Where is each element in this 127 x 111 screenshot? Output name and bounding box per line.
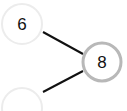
node-8-label: 8 bbox=[97, 53, 106, 72]
edge-empty-to-8 bbox=[43, 71, 83, 92]
node-empty bbox=[2, 88, 42, 111]
node-empty-circle bbox=[2, 88, 42, 111]
node-6-label: 6 bbox=[17, 15, 26, 34]
node-8: 8 bbox=[83, 43, 121, 81]
edge-6-to-8 bbox=[43, 32, 83, 54]
tree-diagram: 6 8 bbox=[0, 0, 127, 111]
node-6: 6 bbox=[2, 4, 42, 44]
